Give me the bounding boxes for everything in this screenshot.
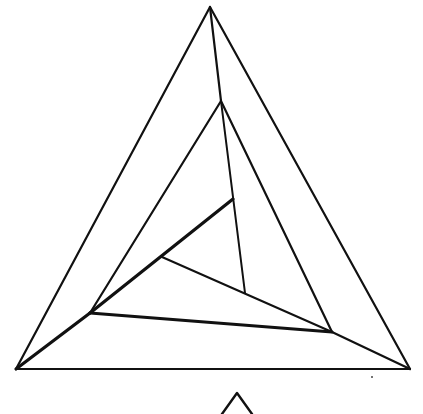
inner-apex-drop [221, 101, 245, 293]
spiral-apex-to-second [210, 7, 221, 101]
partial-bottom-triangle [222, 393, 252, 414]
diagram-lines [16, 7, 410, 369]
outer-corner-to-mid-left [16, 313, 90, 369]
nested-spiral-triangle-diagram [0, 0, 423, 414]
second-left-edge [90, 101, 221, 313]
outer-right-edge [210, 7, 410, 369]
ink-speck [371, 376, 373, 378]
second-to-outer-corner [332, 332, 410, 369]
mid-left-to-inner-apex [90, 199, 233, 313]
second-right-edge [221, 101, 332, 332]
